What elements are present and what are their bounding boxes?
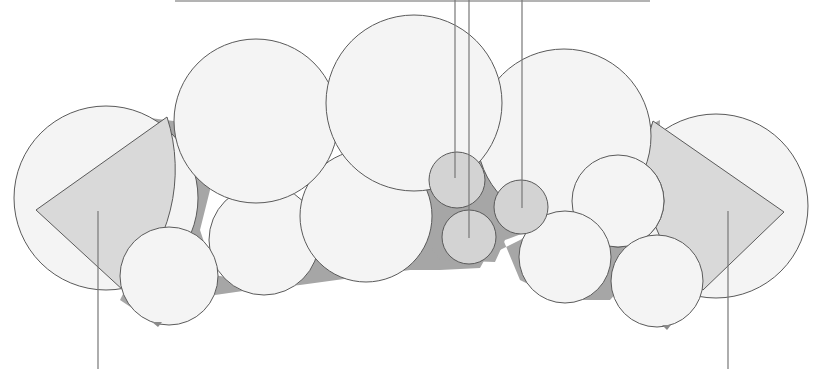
cusp-mark-right [662,325,671,330]
circle-small-top [429,152,485,208]
circle-bottom-left [120,227,218,325]
circle-packing-diagram [0,0,825,369]
circle-bottom-right [611,235,703,327]
circle-small-right [494,180,548,234]
circle-top-left [174,39,338,203]
